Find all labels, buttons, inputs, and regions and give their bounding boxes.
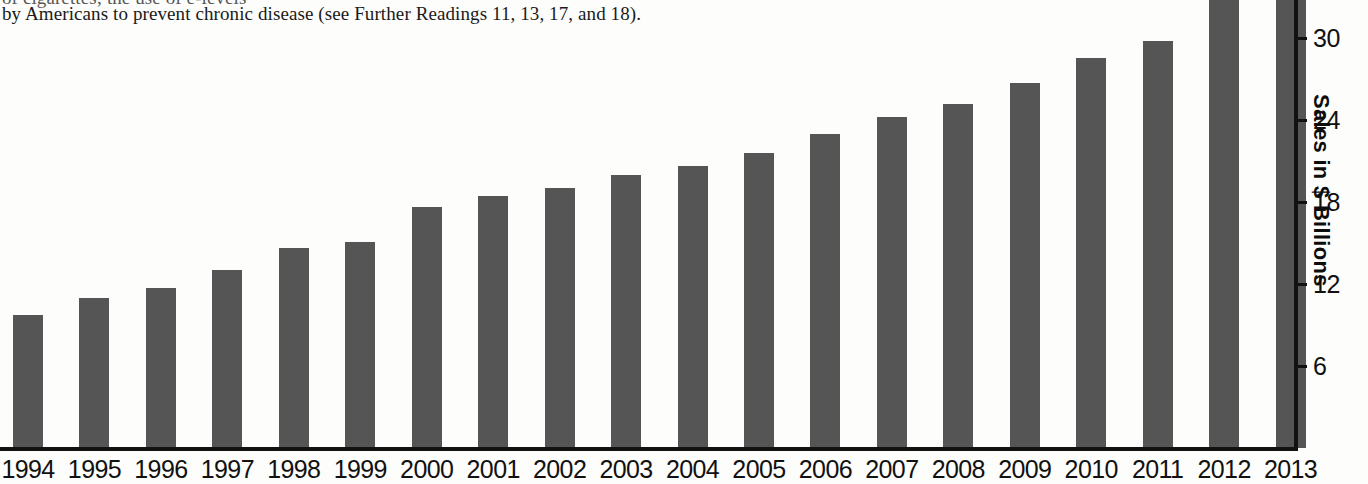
x-tick-label-2009: 2009 [992, 455, 1058, 484]
bar-2001 [478, 196, 508, 448]
bar-2006 [810, 134, 840, 448]
x-tick-label-2001: 2001 [460, 455, 526, 484]
bar-1999 [345, 242, 375, 448]
bar-2002 [545, 188, 575, 448]
x-tick-label-2011: 2011 [1125, 455, 1191, 484]
x-tick-label-1995: 1995 [61, 455, 127, 484]
x-tick-label-2000: 2000 [394, 455, 460, 484]
bar-2005 [744, 153, 774, 448]
y-tick-6 [1294, 365, 1307, 368]
x-tick-label-1996: 1996 [128, 455, 194, 484]
y-tick-12 [1294, 283, 1307, 286]
y-tick-24 [1294, 119, 1307, 122]
y-tick-18 [1294, 201, 1307, 204]
bar-1995 [79, 298, 109, 448]
plot-area [0, 0, 1300, 452]
x-tick-label-1994: 1994 [0, 455, 61, 484]
x-tick-label-2006: 2006 [792, 455, 858, 484]
bar-2008 [943, 104, 973, 448]
x-tick-label-1999: 1999 [327, 455, 393, 484]
bar-2007 [877, 117, 907, 448]
x-tick-label-2010: 2010 [1058, 455, 1124, 484]
y-tick-label-30: 30 [1313, 23, 1340, 52]
x-tick-label-2005: 2005 [726, 455, 792, 484]
x-tick-label-1998: 1998 [261, 455, 327, 484]
bar-2009 [1010, 83, 1040, 448]
x-tick-label-2012: 2012 [1191, 455, 1257, 484]
x-tick-label-1997: 1997 [194, 455, 260, 484]
bar-2010 [1076, 58, 1106, 448]
bar-1994 [13, 315, 43, 448]
x-axis-line [0, 447, 1298, 451]
y-tick-label-6: 6 [1313, 351, 1327, 380]
x-tick-label-2007: 2007 [859, 455, 925, 484]
bar-2013 [1276, 0, 1306, 448]
x-tick-label-2008: 2008 [925, 455, 991, 484]
bar-2011 [1143, 41, 1173, 448]
bar-1998 [279, 248, 309, 448]
bar-2012 [1209, 0, 1239, 448]
bar-1997 [212, 270, 242, 448]
bar-1996 [146, 288, 176, 448]
bar-chart: 612182430 199419951996199719981999200020… [0, 0, 1368, 484]
bar-2000 [412, 207, 442, 448]
x-tick-label-2003: 2003 [593, 455, 659, 484]
x-tick-label-2002: 2002 [527, 455, 593, 484]
y-axis-title: Sales in $ Billions [1308, 94, 1334, 287]
bar-2004 [678, 166, 708, 448]
y-axis-line [1294, 0, 1298, 451]
figure-page: of cigarettes; the use of e-levels by Am… [0, 0, 1368, 484]
x-tick-label-2013: 2013 [1258, 455, 1324, 484]
x-tick-label-2004: 2004 [660, 455, 726, 484]
bar-2003 [611, 175, 641, 448]
y-tick-30 [1294, 37, 1307, 40]
